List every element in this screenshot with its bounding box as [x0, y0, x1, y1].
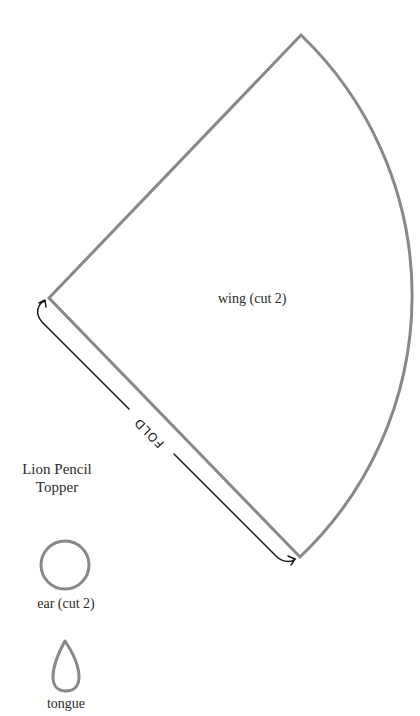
- fold-arrow-upper: [38, 301, 129, 409]
- ear-label: ear (cut 2): [32, 597, 100, 611]
- pattern-title: Lion Pencil Topper: [20, 460, 94, 496]
- pattern-sheet: wing (cut 2) FOLD Lion Pencil Topper ear…: [0, 0, 420, 716]
- tongue-outline: [53, 641, 79, 691]
- ear-outline: [41, 541, 89, 589]
- pattern-title-line2: Topper: [20, 478, 94, 496]
- wing-label: wing (cut 2): [218, 292, 286, 306]
- fold-arrow-lower: [174, 454, 295, 561]
- tongue-label: tongue: [32, 697, 100, 711]
- pattern-title-line1: Lion Pencil: [20, 460, 94, 478]
